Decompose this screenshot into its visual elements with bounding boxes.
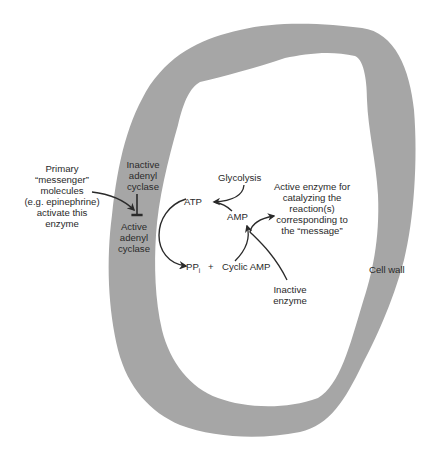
primary-messenger-line-4: (e.g. epinephrine)	[24, 196, 99, 207]
primary-messenger-line-3: molecules	[40, 185, 83, 196]
plus-sign: +	[208, 261, 214, 272]
active-adenyl-cyclase-label: Active adenyl cyclase	[118, 221, 150, 254]
inactive-enzyme-label: Inactive enzyme	[273, 284, 307, 306]
inactive-cyclase-line-2: adenyl	[129, 170, 157, 181]
active-enzyme-line-5: the “message”	[281, 225, 342, 236]
active-enzyme-line-3: reaction(s)	[289, 203, 334, 214]
inactive-adenyl-cyclase-label: Inactive adenyl cyclase	[126, 159, 159, 192]
inactive-enzyme-line-2: enzyme	[273, 295, 307, 306]
ppi-label: PPi	[186, 261, 200, 274]
ppi-subscript: i	[199, 267, 200, 274]
cyclic-amp-label: Cyclic AMP	[222, 261, 271, 272]
amp-label: AMP	[227, 211, 248, 222]
active-cyclase-line-2: adenyl	[120, 232, 148, 243]
glycolysis-to-atp-arrow	[214, 185, 244, 202]
primary-messenger-label: Primary “messenger” molecules (e.g. epin…	[24, 163, 99, 229]
active-cyclase-line-3: cyclase	[118, 243, 150, 254]
inactive-cyclase-line-3: cyclase	[127, 181, 159, 192]
cell-diagram: Primary “messenger” molecules (e.g. epin…	[0, 0, 438, 449]
camp-to-amp-arrow	[235, 226, 248, 261]
active-enzyme-line-1: Active enzyme for	[274, 181, 351, 192]
inactive-enzyme-line-1: Inactive	[273, 284, 306, 295]
atp-label: ATP	[184, 196, 202, 207]
primary-messenger-line-1: Primary	[45, 163, 78, 174]
ppi-text: PP	[186, 261, 199, 272]
amp-to-atp-arrow	[214, 202, 232, 211]
primary-messenger-line-2: “messenger”	[35, 174, 89, 185]
diagram-canvas: Primary “messenger” molecules (e.g. epin…	[0, 0, 438, 449]
active-enzyme-line-4: corresponding to	[276, 214, 347, 225]
inactive-cyclase-line-1: Inactive	[126, 159, 159, 170]
cell-wall-label: Cell wall	[369, 264, 405, 275]
atp-to-ppi-arrow	[159, 199, 186, 266]
active-enzyme-line-2: catalyzing the	[283, 192, 342, 203]
glycolysis-label: Glycolysis	[218, 172, 261, 183]
cell-wall-shape	[109, 24, 416, 437]
primary-messenger-line-6: enzyme	[45, 218, 79, 229]
active-enzyme-label: Active enzyme for catalyzing the reactio…	[274, 181, 351, 236]
primary-messenger-line-5: activate this	[37, 207, 88, 218]
active-cyclase-line-1: Active	[121, 221, 147, 232]
